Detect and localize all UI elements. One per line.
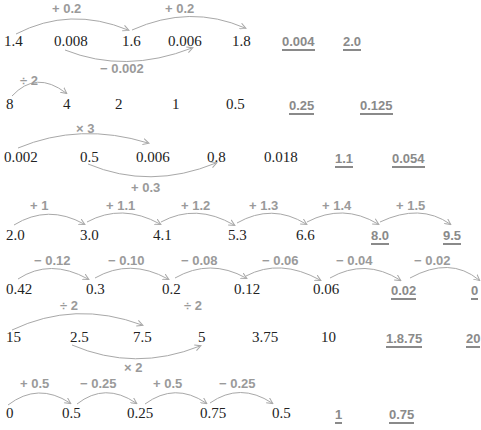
operator-label: − 0.06 [262, 254, 299, 267]
sequence-number: 2.5 [70, 330, 89, 345]
answer-value: 8.0 [371, 229, 389, 245]
operator-label: − 0.002 [100, 62, 144, 75]
arc-arrow [237, 213, 306, 224]
sequence-number: 5.3 [228, 228, 247, 243]
sequence-number: 7.5 [133, 330, 152, 345]
operator-label: + 1.1 [106, 199, 135, 212]
answer-value: 1.8.75 [386, 332, 422, 348]
sequence-number: 2.0 [6, 228, 25, 243]
arc-arrow [95, 268, 168, 279]
operator-label: + 1 [30, 199, 48, 212]
operator-label: − 0.08 [181, 254, 218, 267]
sequence-number: 0.006 [168, 34, 202, 49]
arc-arrow [410, 267, 479, 280]
arc-arrow [8, 393, 70, 405]
sequence-number: 0.5 [226, 97, 245, 112]
operator-label: − 0.25 [219, 377, 256, 390]
arc-arrow [161, 213, 234, 225]
sequence-number: 8 [6, 97, 14, 112]
operator-label: × 3 [76, 122, 94, 135]
answer-value: 9.5 [443, 229, 461, 245]
operator-label: − 0.25 [80, 377, 117, 390]
arc-arrow [18, 269, 88, 280]
answer-value: 20 [466, 332, 480, 348]
arc-arrow [77, 393, 136, 404]
sequence-number: 3.75 [252, 330, 278, 345]
sequence-number: 5 [198, 330, 206, 345]
answer-value: 0.054 [392, 152, 425, 168]
operator-label: + 1.4 [322, 199, 351, 212]
operator-label: + 0.5 [153, 377, 182, 390]
arc-arrows-layer [0, 0, 481, 430]
answer-value: 0.125 [360, 99, 393, 115]
sequence-number: 0.06 [313, 282, 339, 297]
operator-label: − 0.04 [336, 254, 373, 267]
sequence-number: 0.5 [272, 406, 291, 421]
arc-arrow [246, 268, 320, 280]
sequence-number: 1.8 [232, 34, 251, 49]
sequence-number: 0.3 [86, 282, 105, 297]
answer-value: 0.25 [289, 99, 314, 115]
arc-arrow [72, 345, 200, 359]
sequence-number: 0.008 [54, 34, 88, 49]
arc-arrow [16, 19, 128, 34]
answer-value: 0 [471, 284, 478, 300]
operator-label: − 0.02 [414, 254, 451, 267]
sequence-number: 1 [172, 97, 180, 112]
operator-label: + 1.5 [396, 199, 425, 212]
sequence-number: 0.5 [80, 150, 99, 165]
operator-label: − 0.10 [108, 254, 145, 267]
operator-label: + 0.3 [131, 181, 160, 194]
sequence-number: 2 [115, 97, 123, 112]
arc-arrow [14, 214, 84, 225]
operator-label: + 1.2 [181, 199, 210, 212]
arc-arrow [145, 393, 206, 404]
sequence-number: 3.0 [80, 228, 99, 243]
answer-value: 2.0 [343, 35, 361, 51]
arc-arrow [307, 213, 378, 224]
sequence-number: 0.8 [207, 150, 226, 165]
operator-label: ÷ 2 [20, 74, 38, 87]
arc-arrow [65, 48, 192, 62]
operator-label: + 0.2 [52, 2, 81, 15]
operator-label: ÷ 2 [184, 299, 202, 312]
sequence-number: 0.018 [264, 150, 298, 165]
sequence-number: 0.5 [62, 406, 81, 421]
sequence-number: 0.25 [127, 406, 153, 421]
sequence-number: 4.1 [153, 228, 172, 243]
sequence-number: 4 [63, 97, 71, 112]
sequence-number: 0.12 [234, 282, 260, 297]
sequence-number: 15 [6, 330, 21, 345]
sequence-number: 1.6 [122, 34, 141, 49]
sequence-number: 0.2 [162, 282, 181, 297]
sequence-number: 0.42 [6, 282, 32, 297]
arc-arrow [12, 314, 142, 330]
arc-arrow [87, 213, 160, 224]
arc-arrow [380, 213, 450, 224]
sequence-number: 0.75 [200, 406, 226, 421]
answer-value: 1 [335, 408, 342, 424]
operator-label: − 0.12 [34, 254, 71, 267]
answer-value: 1.1 [335, 152, 353, 168]
sequence-number: 0.002 [4, 150, 38, 165]
sequence-number: 0.006 [136, 150, 170, 165]
answer-value: 0.02 [391, 284, 416, 300]
operator-label: × 2 [124, 361, 142, 374]
operator-label: ÷ 2 [60, 299, 78, 312]
operator-label: + 1.3 [249, 199, 278, 212]
arc-arrow [88, 163, 216, 177]
arc-arrow [132, 16, 245, 30]
arc-arrow [175, 268, 246, 278]
sequence-number: 1.4 [4, 34, 23, 49]
sequence-number: 6.6 [296, 228, 315, 243]
sequence-number: 0 [6, 406, 14, 421]
operator-label: + 0.2 [165, 2, 194, 15]
arc-arrow [210, 393, 272, 404]
sequence-number: 10 [321, 330, 336, 345]
answer-value: 0.004 [282, 35, 315, 51]
operator-label: + 0.5 [20, 377, 49, 390]
answer-value: 0.75 [389, 408, 414, 424]
arc-arrow [330, 268, 400, 280]
